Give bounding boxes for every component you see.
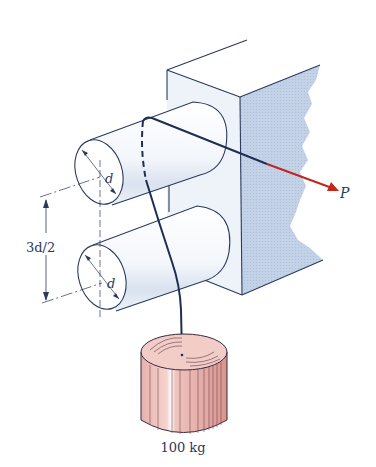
spacing-label: 3d/2 — [26, 240, 55, 255]
mass-label: 100 kg — [160, 440, 205, 455]
force-label: P — [339, 185, 350, 201]
mass-block: 100 kg — [141, 334, 227, 455]
lower-diameter-label: d — [107, 276, 115, 291]
upper-diameter-label: d — [105, 171, 113, 186]
pulley-diagram: P d d 3d/2 — [0, 0, 376, 467]
mass-top — [141, 334, 227, 370]
lower-cylinder — [70, 206, 230, 315]
